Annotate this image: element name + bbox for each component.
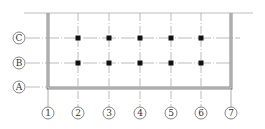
column-label-5: 5 <box>168 108 174 118</box>
column-label-4: 4 <box>137 108 143 118</box>
column-label-6: 6 <box>198 108 204 118</box>
column-label-1: 1 <box>45 108 51 118</box>
row-label-a: A <box>15 82 23 92</box>
row-label-c: C <box>16 33 23 43</box>
vertical-axis-lines <box>78 13 201 107</box>
axis-grid-diagram: C B A 1 2 3 4 5 6 7 <box>0 0 265 129</box>
column-label-3: 3 <box>106 108 112 118</box>
column-label-7: 7 <box>228 108 234 118</box>
horizontal-axis-lines <box>26 38 240 87</box>
wall-outline <box>48 13 231 88</box>
row-label-b: B <box>16 58 23 68</box>
column-markers <box>76 36 204 66</box>
column-label-2: 2 <box>75 108 81 118</box>
